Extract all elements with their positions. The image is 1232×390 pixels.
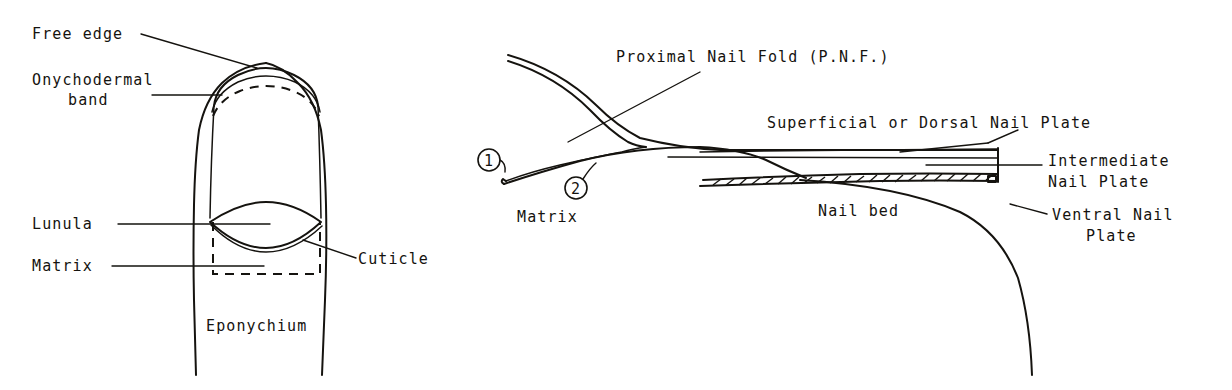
label-eponychium: Eponychium: [206, 317, 307, 335]
nail-edge-left: [210, 106, 214, 218]
label-nail-bed: Nail bed: [818, 202, 899, 220]
label-ventral-nail-plate-line2: Plate: [1086, 227, 1137, 245]
dorsal-intermediate-boundary: [668, 157, 998, 158]
matrix-floor: [504, 147, 806, 184]
label-proximal-nail-fold: Proximal Nail Fold (P.N.F.): [616, 48, 890, 66]
label-onychodermal-band-line2: band: [68, 91, 109, 109]
leader-ventral-nail-plate: [1010, 204, 1047, 214]
marker-one-label: 1: [484, 152, 494, 170]
label-onychodermal-band-line1: Onychodermal: [32, 71, 154, 89]
label-cuticle: Cuticle: [358, 250, 429, 268]
leader-marker-two: [583, 163, 596, 179]
leader-marker-one: [500, 160, 505, 172]
label-matrix-left: Matrix: [32, 257, 93, 275]
pnf-ventral-surface: [508, 61, 646, 147]
marker-one-circled: 1: [478, 149, 500, 171]
label-lunula: Lunula: [32, 215, 93, 233]
label-intermediate-nail-plate-line2: Nail Plate: [1048, 173, 1149, 191]
label-ventral-nail-plate-line1: Ventral Nail: [1052, 206, 1174, 224]
nail-anatomy-figure: 1 2 Free edge Onychodermal band Lunula M…: [0, 0, 1232, 390]
hyponychium-notch: [988, 176, 996, 182]
marker-two-circled: 2: [565, 177, 587, 199]
label-matrix-right: Matrix: [517, 208, 578, 226]
leader-free-edge: [141, 34, 257, 68]
label-free-edge: Free edge: [32, 25, 123, 43]
onychodermal-band-dashed-arc: [213, 86, 319, 116]
label-intermediate-nail-plate-line1: Intermediate: [1048, 152, 1170, 170]
marker-two-label: 2: [571, 180, 581, 198]
label-superficial-dorsal-nail-plate: Superficial or Dorsal Nail Plate: [767, 114, 1091, 132]
leader-cuticle: [303, 240, 356, 258]
diagram-canvas: 1 2 Free edge Onychodermal band Lunula M…: [0, 0, 1232, 390]
